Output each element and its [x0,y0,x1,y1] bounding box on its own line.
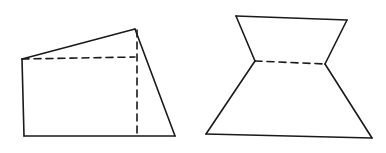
diagram-svg [0,0,386,153]
left-figure [22,29,175,136]
solid-edge-5 [206,134,372,138]
solid-edge-0 [236,16,347,20]
right-figure [206,16,372,138]
solid-edge-0 [22,29,135,59]
solid-edge-4 [325,64,372,138]
solid-edge-2 [22,59,24,136]
solid-edge-2 [325,20,347,64]
solid-edge-3 [206,61,255,134]
dashed-edge-0 [22,57,135,59]
dashed-edge-0 [255,61,325,64]
solid-edge-1 [135,29,175,136]
geometry-diagram [0,0,386,153]
solid-edge-1 [236,16,255,61]
